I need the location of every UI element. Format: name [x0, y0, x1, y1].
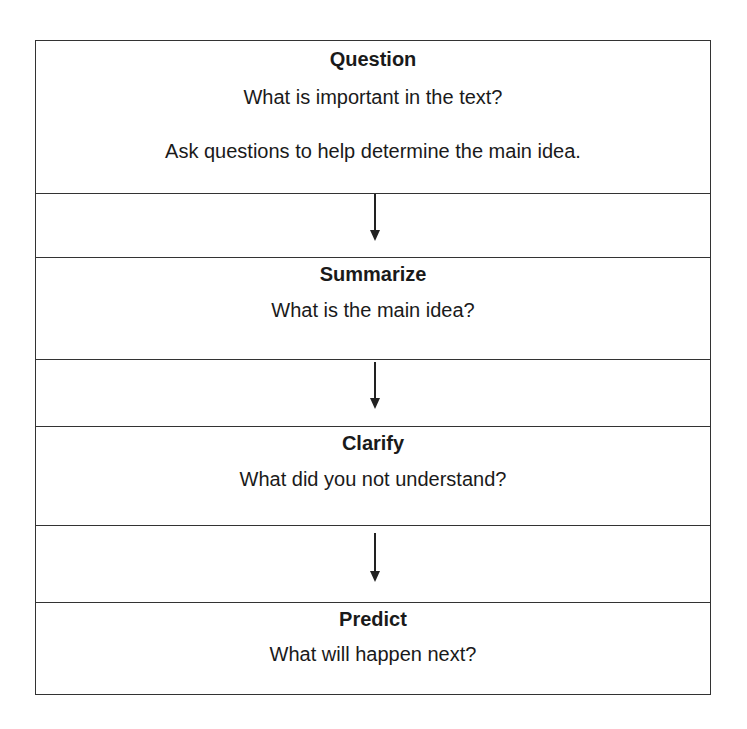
- down-arrow-icon: [369, 533, 381, 583]
- flowchart-frame: Question What is important in the text? …: [35, 40, 711, 695]
- step-text: What is the main idea?: [36, 299, 710, 321]
- step-title: Clarify: [36, 432, 710, 454]
- step-title: Question: [36, 48, 710, 70]
- divider: [36, 359, 710, 360]
- step-text: What did you not understand?: [36, 468, 710, 490]
- step-title: Predict: [36, 608, 710, 630]
- step-clarify: Clarify What did you not understand?: [36, 427, 710, 526]
- step-text: What is important in the text?: [36, 86, 710, 108]
- step-question: Question What is important in the text? …: [36, 41, 710, 194]
- step-text: What will happen next?: [36, 643, 710, 665]
- step-predict: Predict What will happen next?: [36, 603, 710, 695]
- step-text: Ask questions to help determine the main…: [36, 140, 710, 162]
- step-summarize: Summarize What is the main idea?: [36, 258, 710, 360]
- divider: [36, 525, 710, 526]
- step-title: Summarize: [36, 263, 710, 285]
- down-arrow-icon: [369, 194, 381, 242]
- down-arrow-icon: [369, 362, 381, 410]
